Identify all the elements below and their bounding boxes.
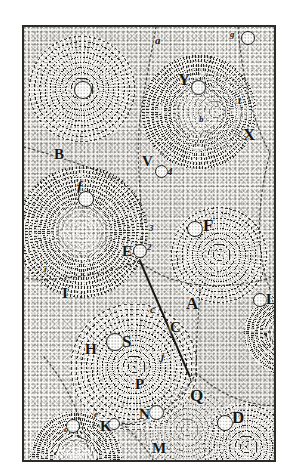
engraving-plate: B Y X V F E A C H S L P Q N M D K I ƒ a …	[0, 0, 293, 473]
stipple-grain-overlay	[24, 27, 274, 460]
plate-frame: B Y X V F E A C H S L P Q N M D K I ƒ a …	[22, 25, 276, 462]
